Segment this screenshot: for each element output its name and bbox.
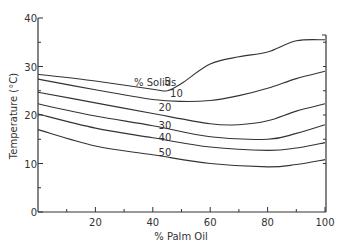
curve-label-40: 40 [159, 132, 172, 143]
x-axis-title: % Palm Oil [154, 231, 208, 242]
y-tick-label: 0 [31, 207, 37, 218]
axes: 01020304020406080100 [24, 13, 334, 228]
y-tick-label: 40 [24, 13, 37, 24]
curve-30-percent-solids [38, 104, 325, 140]
x-tick-label: 80 [261, 217, 274, 228]
y-tick-label: 20 [24, 110, 37, 121]
curve-label-30: 30 [159, 120, 172, 131]
curve-label-10: 10 [170, 88, 183, 99]
line-chart: 01020304020406080100 51020304050 % Solid… [0, 0, 342, 252]
x-tick-label: 60 [204, 217, 217, 228]
series-title: % Solids [134, 77, 176, 88]
y-tick-label: 10 [24, 159, 37, 170]
curves [38, 40, 325, 167]
curve-label-50: 50 [159, 147, 172, 158]
curve-50-percent-solids [38, 130, 325, 167]
y-axis-title: Temperature (°C) [8, 73, 19, 160]
x-tick-label: 40 [146, 217, 159, 228]
x-tick-label: 100 [315, 217, 334, 228]
x-tick-label: 20 [89, 217, 102, 228]
curve-label-20: 20 [159, 102, 172, 113]
y-tick-label: 30 [24, 62, 37, 73]
